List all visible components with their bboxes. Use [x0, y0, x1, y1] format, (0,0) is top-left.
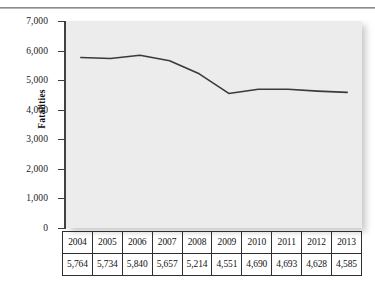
y-tick-label-2000: 2,000: [26, 164, 48, 174]
table-cell-value-2010: 4,690: [242, 254, 272, 276]
table-cell-year-2007: 2007: [152, 232, 182, 254]
line-series-svg: [66, 21, 362, 228]
table-cell-year-2012: 2012: [302, 232, 332, 254]
data-table: 2004200520062007200820092010201120122013…: [62, 231, 362, 276]
table-cell-value-2004: 5,764: [63, 254, 93, 276]
table-cell-year-2010: 2010: [242, 232, 272, 254]
table-cell-value-2006: 5,840: [122, 254, 152, 276]
series-line-fatalities: [81, 55, 347, 93]
y-tick-label-1000: 1,000: [26, 193, 48, 203]
y-axis-title: Fatalities: [37, 54, 47, 164]
y-axis-tick-labels: 7,0006,0005,0004,0003,0002,0001,0000: [0, 0, 58, 240]
chart-figure: 7,0006,0005,0004,0003,0002,0001,0000 Fat…: [0, 0, 375, 298]
table-cell-value-2009: 4,551: [212, 254, 242, 276]
table-cell-year-2011: 2011: [272, 232, 302, 254]
y-tick-mark-1000: [58, 198, 64, 199]
table-cell-value-2011: 4,693: [272, 254, 302, 276]
y-tick-mark-6000: [58, 51, 64, 52]
y-tick-mark-3000: [58, 139, 64, 140]
table-cell-value-2012: 4,628: [302, 254, 332, 276]
table-row-values: 5,7645,7345,8405,6575,2144,5514,6904,693…: [63, 254, 362, 276]
y-tick-mark-7000: [58, 21, 64, 22]
y-tick-mark-0: [58, 228, 64, 229]
table-cell-value-2005: 5,734: [92, 254, 122, 276]
table-cell-value-2008: 5,214: [182, 254, 212, 276]
y-tick-label-7000: 7,000: [26, 16, 48, 26]
table-cell-year-2013: 2013: [332, 232, 362, 254]
y-tick-mark-4000: [58, 110, 64, 111]
y-tick-mark-5000: [58, 80, 64, 81]
table-cell-year-2005: 2005: [92, 232, 122, 254]
plot-area-wrapper: [66, 21, 362, 228]
y-tick-mark-2000: [58, 169, 64, 170]
table-cell-value-2007: 5,657: [152, 254, 182, 276]
table-cell-year-2004: 2004: [63, 232, 93, 254]
table-row-years: 2004200520062007200820092010201120122013: [63, 232, 362, 254]
table-cell-year-2006: 2006: [122, 232, 152, 254]
table-cell-year-2008: 2008: [182, 232, 212, 254]
table-cell-year-2009: 2009: [212, 232, 242, 254]
table-cell-value-2013: 4,585: [332, 254, 362, 276]
y-tick-label-0: 0: [43, 223, 48, 233]
